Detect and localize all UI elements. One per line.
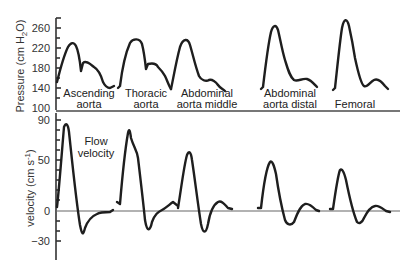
- pressure-trace-abd-distal: [261, 26, 317, 89]
- svg-text:velocity: velocity: [78, 147, 115, 159]
- svg-text:aorta distal: aorta distal: [263, 98, 317, 110]
- pressure-tick-labels: 260 220 180 140 100: [32, 22, 50, 114]
- pressure-trace-femoral: [333, 20, 388, 90]
- pressure-axis: [56, 18, 61, 110]
- svg-text:180: 180: [32, 62, 50, 74]
- pressure-axis-title: Pressure (cm H2O): [14, 19, 29, 112]
- svg-text:50: 50: [38, 154, 50, 166]
- svg-text:100: 100: [32, 102, 50, 114]
- velocity-axis-title: velocity (cm s-1): [23, 149, 36, 226]
- svg-text:0: 0: [44, 205, 50, 217]
- svg-text:90: 90: [38, 114, 50, 126]
- label-flow-velocity: Flow: [84, 135, 107, 147]
- svg-text:220: 220: [32, 42, 50, 54]
- svg-text:aorta: aorta: [133, 98, 159, 110]
- pressure-traces: [57, 20, 388, 91]
- site-labels: Ascending aorta Thoracic aorta Abdominal…: [63, 87, 375, 159]
- svg-text:140: 140: [32, 82, 50, 94]
- velocity-trace-abd-middle: [178, 152, 232, 231]
- svg-text:260: 260: [32, 22, 50, 34]
- velocity-trace-abd-distal: [258, 162, 319, 225]
- pressure-trace-abd-middle: [171, 40, 225, 91]
- hemodynamics-chart: Pressure (cm H2O) velocity (cm s-1) 260 …: [0, 0, 415, 279]
- svg-text:−30: −30: [31, 235, 50, 247]
- velocity-trace-thoracic: [117, 130, 178, 229]
- svg-text:aorta middle: aorta middle: [177, 98, 238, 110]
- svg-text:aorta: aorta: [76, 98, 102, 110]
- velocity-trace-femoral: [330, 169, 390, 222]
- label-femoral: Femoral: [335, 98, 375, 110]
- pressure-trace-thoracic: [118, 39, 171, 89]
- pressure-trace-ascending: [57, 43, 114, 88]
